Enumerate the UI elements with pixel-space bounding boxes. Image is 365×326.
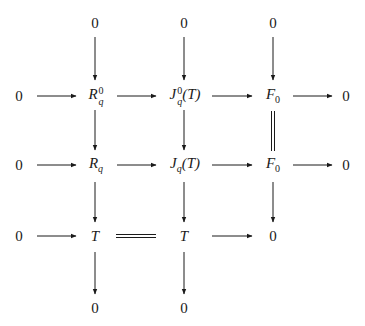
node-top-zero-J: 0 <box>180 16 188 31</box>
JqT-base: J <box>170 155 177 171</box>
commutative-diagram: 0 0 0 0 R0q J0q(T) F0 0 0 Rq Jq(T) F0 0 … <box>0 0 365 326</box>
Jq0T-base: J <box>169 86 176 102</box>
Rq-base: R <box>89 155 98 171</box>
node-r2-right-zero: 0 <box>342 158 350 173</box>
node-F0-row2: F0 <box>266 156 280 174</box>
JqT-arg: (T) <box>182 155 200 171</box>
node-r3-left-zero: 0 <box>15 229 23 244</box>
node-r3-zero: 0 <box>269 229 277 244</box>
F0-row2-sub: 0 <box>275 163 280 174</box>
T-mid-label: T <box>180 228 188 244</box>
Rq0-sup: 0 <box>99 86 104 96</box>
node-r1-left-zero: 0 <box>15 89 23 104</box>
Jq0T-arg: (T) <box>182 86 200 102</box>
Rq-sub: q <box>98 163 103 174</box>
node-T-left: T <box>91 229 99 244</box>
node-F0-row1: F0 <box>266 87 280 105</box>
node-bottom-zero-J: 0 <box>180 301 188 316</box>
F0-row2-base: F <box>266 155 275 171</box>
T-left-label: T <box>91 228 99 244</box>
node-Jq0T: J0q(T) <box>169 86 200 107</box>
node-top-zero-R: 0 <box>91 16 99 31</box>
Rq0-base: R <box>88 86 97 102</box>
node-bottom-zero-R: 0 <box>91 301 99 316</box>
node-top-zero-F: 0 <box>269 16 277 31</box>
node-r1-right-zero: 0 <box>342 89 350 104</box>
F0-sub: 0 <box>275 94 280 105</box>
node-T-mid: T <box>180 229 188 244</box>
Rq0-sub: q <box>99 97 104 107</box>
node-Rq0: R0q <box>88 86 103 107</box>
node-JqT: Jq(T) <box>170 156 200 174</box>
node-Rq: Rq <box>89 156 103 174</box>
F0-base: F <box>266 86 275 102</box>
node-r2-left-zero: 0 <box>15 158 23 173</box>
